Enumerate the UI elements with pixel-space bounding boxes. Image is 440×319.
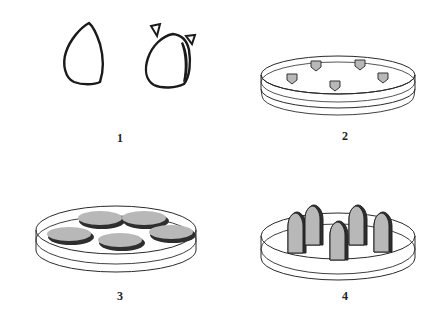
diagram-canvas [0, 0, 440, 319]
panel-label-4: 4 [342, 289, 348, 304]
explant-pieces [287, 60, 388, 91]
seed-cut-right [146, 24, 195, 88]
panel-1-seeds [64, 23, 195, 88]
cut-piece-icon [151, 24, 160, 36]
panel-3-dish-discs [36, 206, 196, 272]
panel-2-dish-explants [261, 56, 415, 115]
callus-discs [47, 211, 196, 251]
seed-outline-left [64, 23, 102, 84]
panel-label-2: 2 [342, 129, 348, 144]
panel-4-dish-shoots [261, 205, 415, 280]
panel-label-3: 3 [117, 289, 123, 304]
panel-label-1: 1 [117, 131, 123, 146]
